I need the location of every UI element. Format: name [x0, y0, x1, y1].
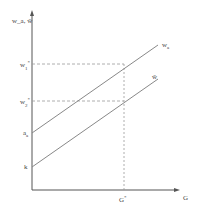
w1-star-label: w1*	[20, 60, 30, 71]
x-axis-label: G	[183, 195, 188, 202]
y-axis-arrow-icon	[30, 10, 34, 16]
what-line-label: ŵ	[152, 74, 157, 81]
what-line	[32, 79, 158, 167]
k-intercept-label: k	[24, 164, 28, 171]
wa-line	[32, 45, 158, 133]
x-axis-arrow-icon	[174, 188, 180, 192]
w2-star-label: w2*	[20, 97, 30, 108]
g-star-label: G*	[119, 195, 127, 204]
a-intercept-label: aa	[23, 130, 28, 138]
diagram-canvas	[0, 0, 201, 212]
y-axis-label: w_a, ŵ	[12, 18, 32, 25]
wa-line-label: wa	[162, 42, 169, 50]
